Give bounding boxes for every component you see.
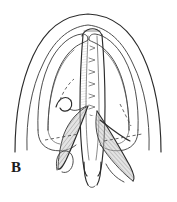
central-airway-column	[80, 29, 105, 176]
recess-base-curves	[38, 130, 138, 151]
left-inner-dashed-guide	[60, 79, 74, 100]
left-shaded-fold	[50, 97, 98, 180]
figure-panel: Line drawing of a coronal section throug…	[0, 0, 177, 202]
right-inner-dashed-guide	[120, 104, 131, 126]
anatomical-line-drawing: Line drawing of a coronal section throug…	[0, 0, 177, 202]
outer-cartilage-outline	[15, 14, 161, 152]
dashed-guides	[45, 79, 142, 141]
panel-label: B	[11, 160, 21, 175]
